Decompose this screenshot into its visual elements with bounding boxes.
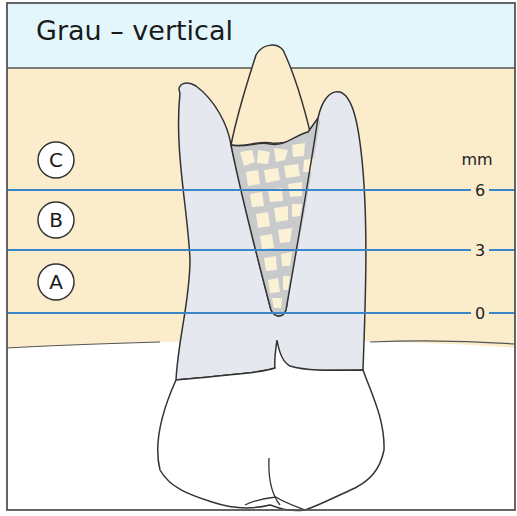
scale-tick-6: 6 xyxy=(475,181,485,200)
diagram-title: Grau – vertical xyxy=(36,15,233,46)
scale-tick-3: 3 xyxy=(475,241,485,260)
zone-label-c: C xyxy=(38,142,74,178)
zone-label-a: A xyxy=(38,264,74,300)
scale-unit: mm xyxy=(461,150,492,169)
vertical-bone-defect-diagram: Grau – vertical C B A mm 6 3 0 xyxy=(0,0,517,516)
zone-label-b: B xyxy=(38,202,74,238)
zone-letter-c: C xyxy=(49,148,63,172)
zone-letter-b: B xyxy=(49,208,63,232)
zone-letter-a: A xyxy=(49,270,63,294)
scale-tick-0: 0 xyxy=(475,304,485,323)
